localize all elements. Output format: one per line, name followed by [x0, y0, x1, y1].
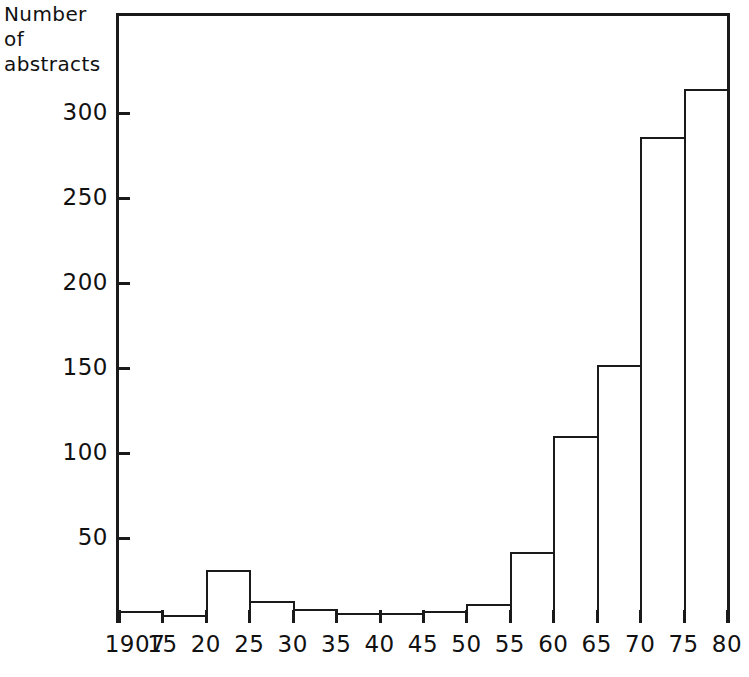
plot-area	[119, 16, 727, 623]
y-axis-tick-label: 150	[40, 356, 108, 379]
x-axis-tick-label: 65	[582, 633, 612, 656]
y-axis-tick	[117, 367, 130, 370]
x-axis-tick	[335, 610, 338, 623]
y-axis-tick-label: 100	[40, 441, 108, 464]
x-axis-tick	[552, 610, 555, 623]
histogram-bar	[249, 601, 294, 623]
x-axis-tick	[726, 610, 729, 623]
x-axis-tick	[596, 610, 599, 623]
y-axis-tick-label: 250	[40, 186, 108, 209]
y-axis-title: Number of abstracts	[4, 2, 112, 77]
histogram-bar	[640, 137, 685, 623]
x-axis-tick-label: 60	[538, 633, 568, 656]
histogram-bar	[380, 613, 425, 623]
x-axis-tick-label: 20	[191, 633, 221, 656]
x-axis-tick	[161, 610, 164, 623]
y-axis-tick-label: 300	[40, 101, 108, 124]
x-axis-tick-label: 55	[495, 633, 525, 656]
y-axis-tick-label: 50	[40, 526, 108, 549]
x-axis-tick	[509, 610, 512, 623]
x-axis-tick-label: 30	[278, 633, 308, 656]
histogram-figure: Number of abstracts 50100150200250300 19…	[0, 0, 749, 677]
histogram-bar	[553, 436, 598, 623]
y-axis-title-line-1: Number	[4, 2, 112, 27]
y-axis-tick	[117, 452, 130, 455]
histogram-bar	[466, 604, 511, 623]
x-axis-tick	[379, 610, 382, 623]
x-axis-tick-label: 80	[712, 633, 742, 656]
histogram-bar	[510, 552, 555, 623]
histogram-bar	[597, 365, 642, 623]
x-axis-tick-label: 35	[321, 633, 351, 656]
x-axis-tick	[639, 610, 642, 623]
x-axis-tick	[118, 610, 121, 623]
x-axis-tick-label: 75	[668, 633, 698, 656]
x-axis-tick-label: 70	[625, 633, 655, 656]
x-axis-tick-label: 15	[147, 633, 177, 656]
x-axis-tick	[205, 610, 208, 623]
histogram-bar	[423, 611, 468, 623]
x-axis-tick-label: 50	[451, 633, 481, 656]
x-axis-tick-label: 45	[408, 633, 438, 656]
histogram-bar	[336, 613, 381, 623]
histogram-bar	[684, 89, 729, 623]
x-axis-tick	[683, 610, 686, 623]
histogram-bar	[119, 611, 164, 623]
y-axis-tick	[117, 282, 130, 285]
y-axis-title-line-2: of	[4, 27, 112, 52]
y-axis-title-line-3: abstracts	[4, 52, 112, 77]
x-axis-tick	[248, 610, 251, 623]
y-axis-tick-label: 200	[40, 271, 108, 294]
x-axis-tick	[465, 610, 468, 623]
x-axis-tick	[422, 610, 425, 623]
histogram-bar	[162, 615, 207, 624]
histogram-bar	[293, 609, 338, 623]
y-axis-tick	[117, 112, 130, 115]
x-axis-tick	[292, 610, 295, 623]
bars-layer	[119, 16, 727, 623]
y-axis-tick	[117, 197, 130, 200]
histogram-bar	[206, 570, 251, 623]
x-axis-tick-label: 40	[364, 633, 394, 656]
x-axis-tick-label: 25	[234, 633, 264, 656]
y-axis-tick	[117, 537, 130, 540]
